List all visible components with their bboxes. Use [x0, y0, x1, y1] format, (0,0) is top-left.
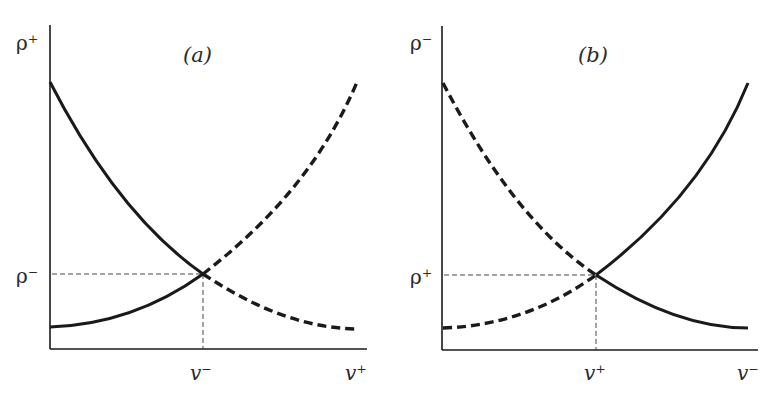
- panel-a-dashed-decreasing-curve: [203, 274, 357, 329]
- panel-a-title: (a): [183, 43, 212, 67]
- panel-b-dashed-decreasing-curve: [443, 83, 596, 275]
- panel-a: ρ⁺ (a) ρ⁻ v⁻ v⁺: [16, 25, 367, 385]
- panel-b-y-axis-label: ρ⁻: [410, 31, 432, 55]
- panel-b-y-tick-label: ρ⁺: [410, 265, 432, 289]
- panel-a-dashed-increasing-curve: [203, 82, 357, 274]
- panel-a-x-axis-label: v⁺: [345, 361, 367, 385]
- panel-a-x-tick-label: v⁻: [190, 361, 212, 385]
- panel-b-x-axis-label: v⁻: [737, 361, 759, 385]
- panel-a-y-tick-label: ρ⁻: [16, 264, 38, 288]
- panel-a-y-axis-label: ρ⁺: [16, 31, 38, 55]
- panel-b: ρ⁻ (b) ρ⁺ v⁺ v⁻: [410, 26, 759, 385]
- panel-b-title: (b): [578, 43, 608, 67]
- panel-b-solid-increasing-curve: [596, 83, 748, 275]
- panel-b-solid-decreasing-curve: [596, 275, 748, 328]
- diagram-canvas: ρ⁺ (a) ρ⁻ v⁻ v⁺ ρ⁻ (b) ρ⁺ v⁺ v⁻: [0, 0, 780, 400]
- panel-b-x-tick-label: v⁺: [584, 361, 606, 385]
- panel-a-solid-increasing-curve: [50, 274, 203, 327]
- panel-a-solid-decreasing-curve: [50, 82, 203, 274]
- panel-b-dashed-increasing-curve: [443, 275, 596, 328]
